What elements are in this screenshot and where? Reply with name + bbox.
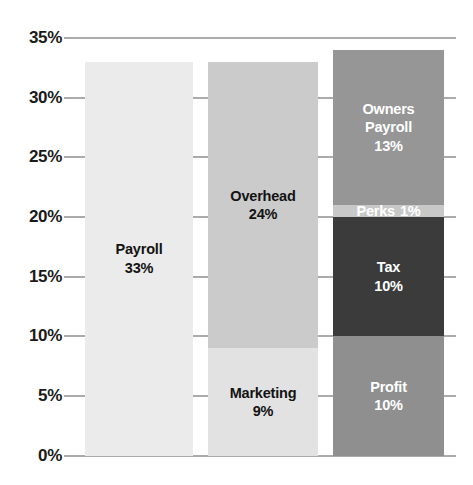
gridline-30pct bbox=[318, 97, 333, 98]
segment-label: Tax bbox=[377, 258, 400, 276]
y-axis-tick-0pct: 0% bbox=[38, 446, 62, 466]
gridline-25pct bbox=[444, 157, 456, 158]
y-axis-tick-labels: 0%5%10%15%20%25%30%35% bbox=[0, 0, 62, 485]
segment-value: 10% bbox=[374, 396, 402, 414]
gridline-15pct bbox=[64, 276, 85, 277]
gridline-5pct bbox=[64, 395, 85, 396]
segment-value: 24% bbox=[249, 205, 277, 223]
segment-value: 13% bbox=[374, 137, 402, 155]
gridline-5pct bbox=[444, 395, 456, 396]
y-axis-tick-25pct: 25% bbox=[29, 147, 62, 167]
gridline-30pct bbox=[64, 97, 85, 98]
gridline-10pct bbox=[318, 336, 333, 337]
gridline-20pct bbox=[64, 216, 85, 217]
gridline-15pct bbox=[318, 276, 333, 277]
segment-label: Marketing bbox=[230, 384, 297, 402]
y-axis-tick-30pct: 30% bbox=[29, 88, 62, 108]
bar-column-1[interactable]: Payroll33% bbox=[85, 62, 193, 456]
bar-segment-tax[interactable]: Tax10% bbox=[333, 217, 444, 336]
gridline-20pct bbox=[318, 216, 333, 217]
gridline-30pct bbox=[444, 97, 456, 98]
gridline-25pct bbox=[64, 157, 85, 158]
gridline-15pct bbox=[444, 276, 456, 277]
segment-value: 9% bbox=[253, 402, 274, 420]
segment-label: Profit bbox=[370, 378, 407, 396]
segment-label: OwnersPayroll bbox=[363, 100, 415, 137]
bar-column-2[interactable]: Marketing9%Overhead24% bbox=[208, 62, 318, 456]
y-axis-tick-20pct: 20% bbox=[29, 207, 62, 227]
y-axis-tick-15pct: 15% bbox=[29, 267, 62, 287]
gridline-10pct bbox=[444, 336, 456, 337]
gridline-5pct bbox=[318, 395, 333, 396]
gridline-20pct bbox=[193, 216, 208, 217]
gridline-25pct bbox=[193, 157, 208, 158]
bar-segment-profit[interactable]: Profit10% bbox=[333, 336, 444, 455]
segment-label: Payroll bbox=[116, 240, 163, 258]
gridline-20pct bbox=[444, 216, 456, 217]
gridline-25pct bbox=[318, 157, 333, 158]
gridline-10pct bbox=[64, 336, 85, 337]
gridline-5pct bbox=[193, 395, 208, 396]
stacked-bar-chart: 0%5%10%15%20%25%30%35% Payroll33%Marketi… bbox=[0, 0, 473, 485]
gridline-30pct bbox=[193, 97, 208, 98]
bar-segment-overhead[interactable]: Overhead24% bbox=[208, 62, 318, 348]
gridline-10pct bbox=[193, 336, 208, 337]
gridline-15pct bbox=[193, 276, 208, 277]
y-axis-tick-5pct: 5% bbox=[38, 386, 62, 406]
bar-segment-perks[interactable]: Perks1% bbox=[333, 205, 444, 217]
bar-segment-payroll[interactable]: Payroll33% bbox=[85, 62, 193, 456]
segment-value: 10% bbox=[374, 277, 402, 295]
segment-value: 1% bbox=[400, 205, 421, 217]
segment-label: Overhead bbox=[230, 187, 295, 205]
segment-label: Perks bbox=[356, 205, 395, 217]
gridline-35pct bbox=[64, 38, 456, 39]
plot-area: 0%5%10%15%20%25%30%35% Payroll33%Marketi… bbox=[0, 0, 473, 485]
y-axis-tick-35pct: 35% bbox=[29, 28, 62, 48]
y-axis-tick-10pct: 10% bbox=[29, 326, 62, 346]
bar-segment-marketing[interactable]: Marketing9% bbox=[208, 348, 318, 455]
bar-segment-owners-payroll[interactable]: OwnersPayroll13% bbox=[333, 50, 444, 205]
segment-value: 33% bbox=[125, 259, 153, 277]
bar-column-3[interactable]: Profit10%Tax10%Perks1%OwnersPayroll13% bbox=[333, 50, 444, 456]
